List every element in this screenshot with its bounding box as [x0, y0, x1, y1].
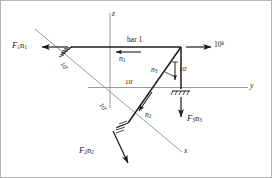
unit-vector-n2-label: n2: [145, 111, 152, 120]
reaction-F2-arrow: [113, 131, 128, 163]
unit-vector-n2-arrow: [139, 92, 152, 111]
F1-vector-subscript: 1: [24, 44, 27, 50]
bar-1-label: bar 1: [127, 36, 142, 44]
n1-subscript: 1: [123, 57, 126, 63]
dim-vert-value: 10: [179, 65, 186, 73]
diagram-svg: [0, 0, 272, 178]
unit-vector-n3-label: n3: [151, 66, 158, 75]
support-bottom-pin-icon: [116, 121, 128, 133]
support-left-pin-icon: [59, 47, 72, 57]
applied-load-10k-label: 10k: [214, 41, 224, 49]
reaction-F3-label: F3n3: [187, 114, 202, 124]
F3-vector-subscript: 3: [199, 117, 202, 123]
dimension-horizontal-label: 10': [125, 79, 133, 86]
support-right-pin-icon: [171, 91, 190, 95]
unit-vector-n1-label: n1: [119, 55, 126, 64]
dim-vert-unit: ': [186, 65, 187, 73]
member-diagonal-bar-2: [128, 47, 181, 123]
reaction-F2-label: F2n2: [79, 146, 94, 156]
figure-canvas: z y x bar 1 n1 n2 n3 10' 10' 10' 10' 10k…: [0, 0, 272, 178]
unit-vector-n3-leader: [165, 72, 173, 76]
dim-horiz-value: 10: [125, 78, 132, 86]
load-unit: k: [222, 40, 225, 46]
load-value: 10: [214, 40, 222, 49]
n2-subscript: 2: [149, 113, 152, 119]
z-axis-label: z: [112, 10, 115, 18]
F2-vector-subscript: 2: [91, 149, 94, 155]
dim-horiz-unit: ': [132, 78, 133, 86]
x-axis-label: x: [184, 147, 187, 155]
y-axis-label: y: [250, 82, 253, 90]
dimension-vertical-label: 10': [179, 66, 187, 73]
reaction-F1-label: F1n1: [12, 41, 27, 51]
n3-subscript: 3: [155, 68, 158, 74]
figure-border: [1, 1, 272, 178]
